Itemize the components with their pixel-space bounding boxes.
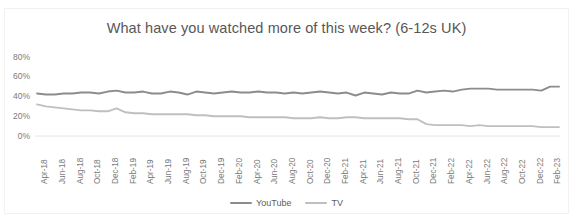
legend-label: YouTube — [256, 198, 291, 208]
chart-container: What have you watched more of this week?… — [0, 0, 573, 220]
series-layer — [37, 87, 559, 127]
series-line-tv — [37, 104, 559, 127]
legend-label: TV — [331, 198, 343, 208]
legend-item-tv[interactable]: TV — [305, 198, 343, 208]
legend-item-youtube[interactable]: YouTube — [230, 198, 291, 208]
plot-area — [0, 0, 573, 220]
legend-swatch-icon — [230, 202, 252, 204]
chart-legend: YouTubeTV — [0, 198, 573, 208]
legend-swatch-icon — [305, 202, 327, 204]
series-line-youtube — [37, 87, 559, 96]
